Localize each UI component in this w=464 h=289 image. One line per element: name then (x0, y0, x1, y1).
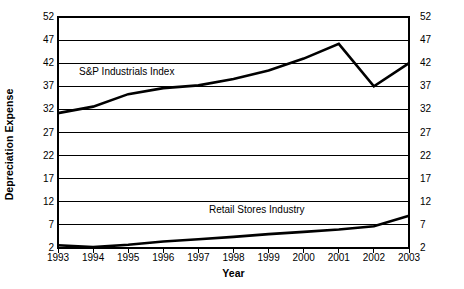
series-label-sp-industrials-index: S&P Industrials Index (76, 66, 177, 78)
chart-figure: Depreciation Expense Year 27121722273237… (0, 0, 464, 289)
series-line-retail-stores-industry (58, 216, 409, 247)
series-line-sp-industrials-index (58, 44, 409, 113)
plot-area (0, 0, 464, 289)
series-label-retail-stores-industry: Retail Stores Industry (206, 204, 308, 216)
